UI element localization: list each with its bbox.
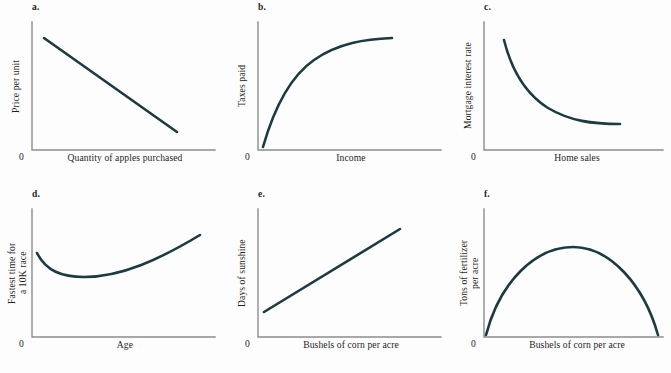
panel-d: d. Fastest time for a 10K race Age 0 — [0, 187, 223, 373]
curve-b — [263, 38, 392, 147]
origin-label-c: 0 — [471, 151, 476, 162]
panel-f: f. Tons of fertilizer per acre Bushels o… — [452, 187, 671, 373]
panel-a: a. Price per unit Quantity of apples pur… — [0, 0, 223, 186]
y-axis-label-a: Price per unit — [10, 22, 22, 150]
y-axis-label-d: Fastest time for a 10K race — [4, 209, 30, 337]
origin-label-e: 0 — [245, 338, 250, 349]
panel-e: e. Days of sunshine Bushels of corn per … — [226, 187, 449, 373]
origin-label-f: 0 — [471, 338, 476, 349]
x-axis-label-f: Bushels of corn per acre — [484, 339, 670, 352]
x-axis-label-d: Age — [32, 339, 218, 352]
panel-b: b. Taxes paid Income 0 — [226, 0, 449, 186]
x-axis-label-c: Home sales — [484, 152, 670, 165]
axis-lines-a — [32, 22, 215, 150]
origin-label-b: 0 — [245, 151, 250, 162]
y-axis-label-b: Taxes paid — [236, 22, 248, 150]
x-axis-label-e: Bushels of corn per acre — [258, 339, 444, 352]
figure-container: a. Price per unit Quantity of apples pur… — [0, 0, 671, 373]
axis-lines-f — [484, 209, 663, 337]
y-axis-label-c: Mortgage interest rate — [462, 22, 474, 150]
curve-f — [486, 247, 658, 335]
origin-label-d: 0 — [19, 338, 24, 349]
axis-lines-e — [258, 209, 441, 337]
curve-e — [264, 229, 400, 312]
origin-label-a: 0 — [19, 151, 24, 162]
y-axis-label-e: Days of sunshine — [236, 209, 248, 337]
panel-c: c. Mortgage interest rate Home sales 0 — [452, 0, 671, 186]
x-axis-label-b: Income — [258, 152, 444, 165]
x-axis-label-a: Quantity of apples purchased — [32, 152, 218, 165]
axis-lines-b — [258, 22, 441, 150]
curve-c — [504, 40, 620, 124]
curve-a — [44, 38, 177, 132]
y-axis-label-f: Tons of fertilizer per acre — [456, 209, 482, 337]
curve-d — [37, 235, 200, 277]
axis-lines-c — [484, 22, 663, 150]
